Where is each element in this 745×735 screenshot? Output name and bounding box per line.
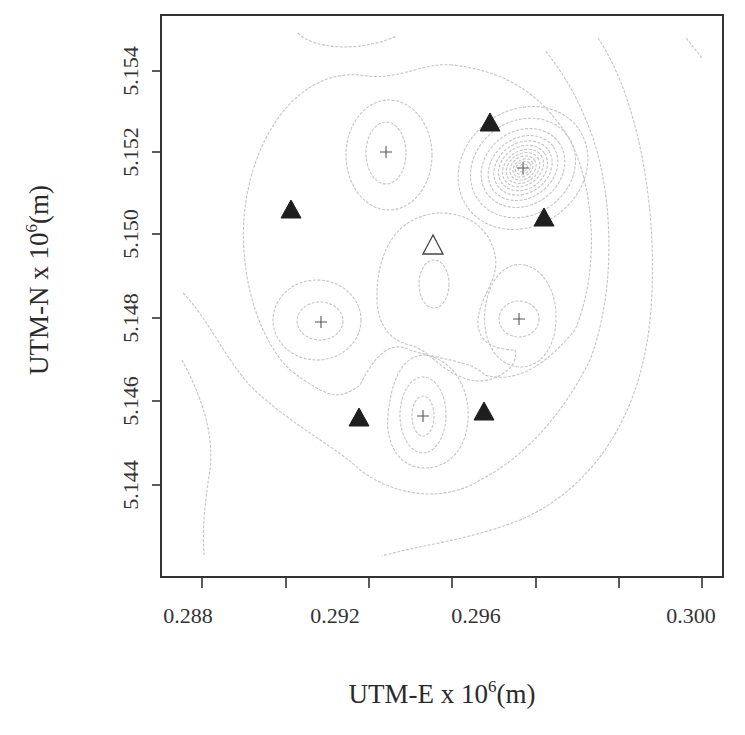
station-markers: [281, 113, 554, 426]
y-tick-label: 5.148: [118, 293, 143, 343]
x-tick-label: 0.300: [666, 603, 716, 628]
plus-marker: [417, 410, 429, 422]
contour-lines: [182, 33, 702, 556]
x-tick-label: 0.296: [451, 603, 501, 628]
y-tick-label: 5.144: [118, 460, 143, 510]
filled-triangle-marker: [281, 200, 301, 218]
open-triangle-marker: [423, 235, 443, 254]
y-tick-label: 5.150: [118, 209, 143, 259]
plus-marker: [380, 146, 392, 158]
filled-triangle-marker: [534, 208, 554, 226]
source-center-markers: [315, 146, 529, 422]
filled-triangle-marker: [480, 113, 500, 131]
x-axis-title: UTM-E x 106(m): [349, 677, 536, 709]
plot-frame: [161, 15, 723, 577]
plus-marker: [315, 316, 327, 328]
y-axis: 5.154 5.152 5.150 5.148 5.146 5.144: [118, 46, 161, 510]
x-axis: 0.288 0.292 0.296 0.300: [163, 577, 716, 628]
x-tick-label: 0.292: [310, 603, 360, 628]
plus-marker: [513, 313, 525, 325]
y-tick-label: 5.152: [118, 127, 143, 177]
filled-triangle-marker: [474, 402, 494, 420]
y-tick-label: 5.146: [118, 376, 143, 426]
contour-chart: 5.154 5.152 5.150 5.148 5.146 5.144 0.28…: [0, 0, 745, 735]
filled-triangle-marker: [349, 408, 369, 426]
y-tick-label: 5.154: [118, 46, 143, 96]
y-axis-title: UTM-N x 106(m): [22, 185, 54, 375]
x-tick-label: 0.288: [163, 603, 213, 628]
